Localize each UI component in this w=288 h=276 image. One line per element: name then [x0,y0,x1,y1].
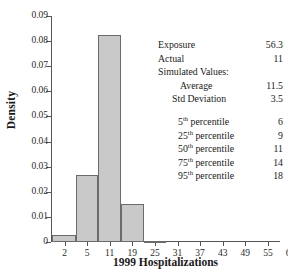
stat-row-actual: Actual 11 [158,52,283,66]
y-tick-label: 0.03 [31,160,48,173]
percentile-number: 25 [178,130,188,141]
y-tick-label: 0.02 [31,185,48,198]
stat-row-percentile: 95th percentile18 [158,169,283,183]
x-tick-mark [87,242,88,246]
stat-label-percentile: 5th percentile [158,115,229,129]
stat-label-percentile: 95th percentile [158,169,234,183]
percentile-word: percentile [193,170,234,181]
histogram-bar [52,235,76,242]
stat-label-percentile: 25th percentile [158,129,234,143]
y-tick-label: 0.05 [31,109,48,122]
stat-value-average: 11.5 [266,79,283,93]
histogram-bar [98,35,121,242]
stat-value-std-deviation: 3.5 [271,92,283,106]
stat-label-simulated: Simulated Values: [158,66,229,77]
y-tick-label: 0.07 [31,59,48,72]
stat-row-percentile: 75th percentile14 [158,156,283,170]
x-tick-mark [110,242,111,246]
stat-value-percentile: 9 [278,129,283,143]
stat-row-percentile: 5th percentile6 [158,115,283,129]
y-tick-label: 0.08 [31,34,48,47]
stat-label-percentile: 50th percentile [158,142,234,156]
y-tick-label: 0.06 [31,84,48,97]
stat-label-actual: Actual [158,52,184,66]
chart-title-remnant: · [138,0,148,3]
stat-row-percentile: 25th percentile9 [158,129,283,143]
x-tick-mark [65,242,66,246]
stat-value-percentile: 18 [273,169,283,183]
stat-value-percentile: 14 [273,156,283,170]
percentile-word: percentile [188,116,229,127]
stat-value-actual: 11 [274,52,283,66]
percentile-number: 95 [178,170,188,181]
y-axis-label: Density [5,70,17,150]
histogram-bar [144,241,167,243]
stat-label-exposure: Exposure [158,38,195,52]
statistics-panel: Exposure 56.3 Actual 11 Simulated Values… [158,38,283,183]
stat-spacer [158,106,283,115]
y-tick-label: 0.01 [31,210,48,223]
stat-value-percentile: 6 [278,115,283,129]
x-tick-mark [245,242,246,246]
stat-heading-simulated: Simulated Values: [158,65,283,79]
stat-value-exposure: 56.3 [266,38,283,52]
histogram-bar [76,175,99,242]
x-tick-mark [200,242,201,246]
stat-row-exposure: Exposure 56.3 [158,38,283,52]
y-axis-line [51,16,52,242]
percentile-word: percentile [193,157,234,168]
percentile-word: percentile [193,143,234,154]
histogram-figure: · Density 00.010.020.030.040.050.060.070… [0,0,288,276]
x-tick-mark [268,242,269,246]
x-axis-label: 1999 Hospitalizations [51,256,280,268]
x-tick-mark [223,242,224,246]
stat-row-std-deviation: Std Deviation 3.5 [158,92,283,106]
percentile-number: 50 [178,143,188,154]
y-tick-label: 0.09 [31,9,48,22]
stat-row-percentile: 50th percentile11 [158,142,283,156]
stat-label-percentile: 75th percentile [158,156,234,170]
histogram-bar [121,204,144,242]
x-tick-mark [132,242,133,246]
stat-row-average: Average 11.5 [158,79,283,93]
y-tick-label: 0.04 [31,135,48,148]
x-tick-mark [178,242,179,246]
percentile-word: percentile [193,130,234,141]
x-tick-label: 61 [286,247,288,260]
percentile-rows: 5th percentile625th percentile950th perc… [158,115,283,183]
y-tick-label: 0 [43,235,48,248]
stat-label-std-deviation: Std Deviation [158,92,226,106]
stat-value-percentile: 11 [274,142,283,156]
percentile-number: 75 [178,157,188,168]
stat-label-average: Average [158,79,212,93]
